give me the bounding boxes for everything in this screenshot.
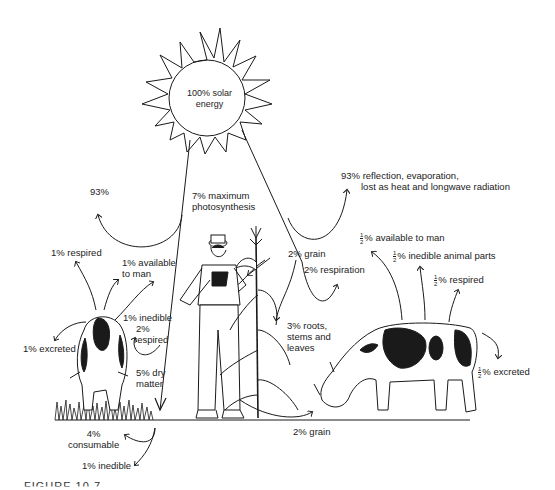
cow2-available-label: 12% available to man bbox=[360, 232, 445, 245]
consumable-label: 4% consumable bbox=[68, 428, 119, 450]
diagram-artwork bbox=[0, 0, 555, 490]
cow1-inedible-label: 1% inedible bbox=[123, 312, 172, 323]
grass-respired-label: 2% respired bbox=[134, 323, 168, 345]
loss-right-label: 93% reflection, evaporation, lost as hea… bbox=[341, 170, 510, 192]
loss-left-label: 93% bbox=[90, 186, 109, 197]
half-fraction: 12 bbox=[478, 366, 481, 379]
grain-to-cow-label: 2% grain bbox=[293, 426, 331, 437]
cow-front-icon bbox=[70, 317, 128, 410]
grass-icon bbox=[55, 400, 153, 420]
cow1-excreted-label: 1% excreted bbox=[23, 343, 76, 354]
cow2-respired-label: 12% respired bbox=[434, 274, 484, 287]
half-fraction: 12 bbox=[434, 274, 437, 287]
grass-inedible-label: 1% inedible bbox=[82, 460, 131, 471]
farmer-icon bbox=[180, 235, 246, 418]
cow1-available-label: 1% available to man bbox=[122, 257, 176, 279]
half-fraction: 12 bbox=[393, 250, 396, 263]
cow2-inedible-label: 12% inedible animal parts bbox=[393, 250, 496, 263]
dry-matter-label: 5% dry matter bbox=[136, 367, 166, 389]
cow1-respired-label: 1% respired bbox=[51, 247, 102, 258]
cow2-excreted-label: 12% excreted bbox=[478, 366, 530, 379]
half-fraction: 12 bbox=[360, 232, 363, 245]
cow-side-icon bbox=[314, 323, 477, 412]
corn-grain-label: 2% grain bbox=[288, 248, 326, 259]
corn-roots-label: 3% roots, stems and leaves bbox=[287, 320, 331, 353]
corn-respiration-label: 2% respiration bbox=[304, 264, 365, 275]
sun-label: 100% solar energy bbox=[187, 88, 232, 110]
photosynthesis-label: 7% maximum photosynthesis bbox=[192, 190, 255, 212]
